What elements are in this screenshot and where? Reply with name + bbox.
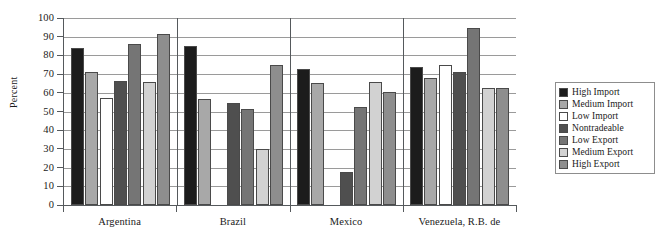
legend-label: Nontradeable [572,123,624,134]
y-tick-60: 60 [43,87,63,99]
bar-low-import[interactable] [439,65,452,205]
bar-high-import[interactable] [297,69,310,206]
bar-group-mexico [290,18,403,205]
bar-high-import[interactable] [71,48,84,205]
bar-slot [255,18,269,205]
bar-slot [424,18,438,205]
x-separator [176,205,177,212]
x-separator [403,205,404,212]
y-tick-30: 30 [43,143,63,155]
bar-group-argentina [64,18,177,205]
y-tick-label: 0 [49,199,57,211]
bar-slot [438,18,452,205]
bar-slot [496,18,510,205]
legend-label: Low Export [572,135,618,146]
bar-slot [157,18,171,205]
legend-swatch-icon [559,148,568,157]
y-tick-label: 20 [43,162,57,174]
bar-medium-export[interactable] [256,149,269,205]
y-tick-label: 80 [43,49,57,61]
x-axis-label: Argentina [63,216,176,227]
legend-item-low-import[interactable]: Low Import [559,110,650,122]
bar-slot [184,18,198,205]
bar-slot [227,18,241,205]
legend-item-medium-export[interactable]: Medium Export [559,146,650,158]
x-axis-labels: ArgentinaBrazilMexicoVenezuela, R.B. de [63,216,516,227]
y-axis-title: Percent [8,77,19,108]
bar-low-export[interactable] [128,44,141,205]
x-separator [516,205,517,212]
y-tick-label: 90 [43,31,57,43]
y-tick-label: 30 [43,143,57,155]
bar-nontradeable[interactable] [340,172,353,205]
bar-slot [368,18,382,205]
bar-slot [128,18,142,205]
bar-medium-import[interactable] [85,72,98,205]
y-tick-40: 40 [43,124,63,136]
y-tick-label: 10 [43,180,57,192]
chart-legend: High ImportMedium ImportLow ImportNontra… [555,82,655,174]
y-tick-0: 0 [49,199,63,211]
legend-item-low-export[interactable]: Low Export [559,134,650,146]
bar-slot [114,18,128,205]
y-tick-80: 80 [43,49,63,61]
legend-swatch-icon [559,124,568,133]
bar-slot [142,18,156,205]
y-tick-label: 50 [43,106,57,118]
legend-swatch-icon [559,112,568,121]
bar-slot [212,18,226,205]
bar-high-export[interactable] [383,92,396,205]
bar-medium-import[interactable] [311,83,324,205]
legend-swatch-icon [559,88,568,97]
legend-swatch-icon [559,136,568,145]
legend-item-high-export[interactable]: High Export [559,158,650,170]
cropped-header-strip [0,0,662,6]
bar-slot [71,18,85,205]
bar-slot [198,18,212,205]
x-separator [290,205,291,212]
legend-item-nontradeable[interactable]: Nontradeable [559,122,650,134]
y-tick-label: 40 [43,124,57,136]
bar-group-venezuela-r-b-de [403,18,516,205]
y-axis: Percent 1009080706050403020100 [0,18,63,205]
bar-medium-export[interactable] [143,82,156,205]
bar-medium-import[interactable] [198,99,211,205]
bar-high-import[interactable] [184,46,197,205]
legend-item-high-import[interactable]: High Import [559,86,650,98]
bar-high-export[interactable] [157,34,170,205]
bar-low-export[interactable] [467,28,480,205]
legend-item-medium-import[interactable]: Medium Import [559,98,650,110]
x-axis-label: Venezuela, R.B. de [403,216,516,227]
bar-slot [99,18,113,205]
bar-medium-export[interactable] [482,88,495,205]
bar-low-export[interactable] [354,107,367,205]
bar-slot [297,18,311,205]
bar-high-export[interactable] [270,65,283,205]
bar-group-brazil [177,18,290,205]
x-separator [63,205,64,212]
bar-slot [325,18,339,205]
bar-nontradeable[interactable] [114,81,127,205]
legend-label: Medium Export [572,147,633,158]
y-tick-label: 70 [43,68,57,80]
bar-low-export[interactable] [241,109,254,205]
bar-nontradeable[interactable] [453,72,466,205]
bar-groups [64,18,516,205]
y-tick-label: 100 [38,12,57,24]
bar-low-import[interactable] [100,98,113,205]
bar-high-export[interactable] [496,88,509,205]
legend-swatch-icon [559,100,568,109]
bar-high-import[interactable] [410,67,423,205]
bar-slot [340,18,354,205]
x-axis-label: Mexico [290,216,403,227]
y-tick-90: 90 [43,31,63,43]
bar-slot [481,18,495,205]
x-axis: ArgentinaBrazilMexicoVenezuela, R.B. de [63,205,516,239]
bar-slot [467,18,481,205]
bar-nontradeable[interactable] [227,103,240,205]
y-tick-10: 10 [43,180,63,192]
bar-medium-export[interactable] [369,82,382,205]
bar-medium-import[interactable] [424,78,437,205]
bar-slot [311,18,325,205]
legend-label: High Export [572,159,620,170]
